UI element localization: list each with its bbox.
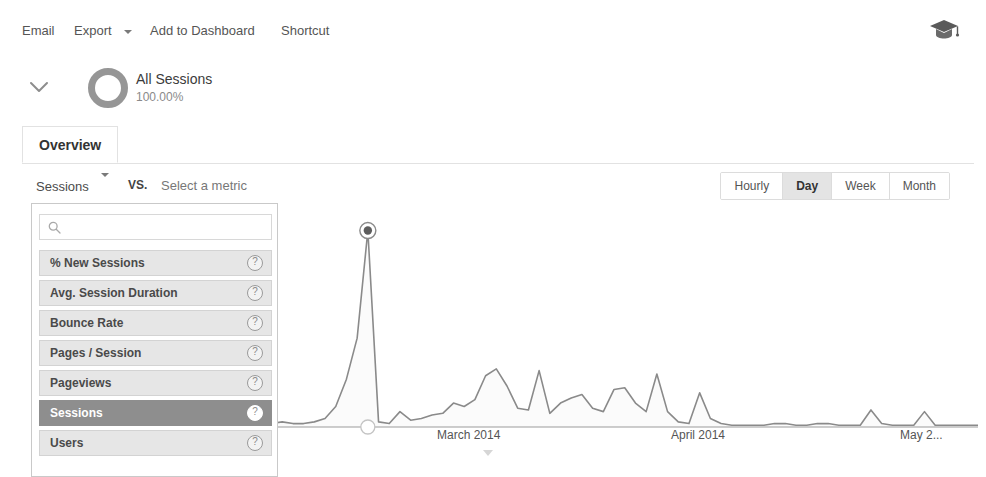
tab-bar: Overview <box>0 126 986 164</box>
help-icon[interactable]: ? <box>247 405 263 421</box>
search-icon <box>48 221 61 234</box>
metric-option-sessions[interactable]: Sessions? <box>39 400 272 426</box>
caret-down-icon <box>101 177 109 195</box>
metric-option-avg-session-duration[interactable]: Avg. Session Duration? <box>39 280 272 306</box>
tab-bar-rule <box>22 163 974 164</box>
metric-option-label: Bounce Rate <box>50 316 123 330</box>
segment-percent: 100.00% <box>136 90 183 104</box>
metric-option-label: Sessions <box>50 406 103 420</box>
metric-option-new-sessions[interactable]: % New Sessions? <box>39 250 272 276</box>
help-icon[interactable]: ? <box>247 255 263 271</box>
x-tick-label: March 2014 <box>437 428 500 442</box>
action-toolbar: Email Export Add to Dashboard Shortcut <box>0 0 986 56</box>
chevron-down-icon[interactable] <box>28 80 50 94</box>
help-icon[interactable]: ? <box>247 345 263 361</box>
graduation-cap-icon[interactable] <box>928 18 962 42</box>
metric-option-label: % New Sessions <box>50 256 145 270</box>
chart-axis-handle-icon[interactable] <box>483 450 493 456</box>
help-icon[interactable]: ? <box>247 315 263 331</box>
help-icon[interactable]: ? <box>247 375 263 391</box>
email-button[interactable]: Email <box>22 24 55 38</box>
granularity-week-button[interactable]: Week <box>832 173 889 199</box>
metric-search-input[interactable] <box>68 216 262 238</box>
metric-option-label: Users <box>50 436 83 450</box>
help-icon[interactable]: ? <box>247 285 263 301</box>
metric-dropdown-panel: % New Sessions?Avg. Session Duration?Bou… <box>31 203 278 477</box>
segment-bar: All Sessions 100.00% <box>0 56 986 118</box>
metric-selector-label: Sessions <box>36 179 89 194</box>
help-icon[interactable]: ? <box>247 435 263 451</box>
tab-overview[interactable]: Overview <box>22 126 118 163</box>
select-a-metric-button[interactable]: Select a metric <box>161 178 247 193</box>
metric-option-pageviews[interactable]: Pageviews? <box>39 370 272 396</box>
export-button[interactable]: Export <box>74 24 112 38</box>
selected-point-dot[interactable] <box>364 226 372 234</box>
metric-selector-button[interactable]: Sessions <box>36 172 109 200</box>
x-tick-label: April 2014 <box>671 428 725 442</box>
metric-option-list: % New Sessions?Avg. Session Duration?Bou… <box>39 250 272 460</box>
metric-option-users[interactable]: Users? <box>39 430 272 456</box>
metric-option-pages-session[interactable]: Pages / Session? <box>39 340 272 366</box>
granularity-month-button[interactable]: Month <box>890 173 949 199</box>
donut-chart-icon <box>88 68 128 108</box>
add-to-dashboard-button[interactable]: Add to Dashboard <box>150 24 255 38</box>
x-tick-label: May 2... <box>900 428 943 442</box>
shortcut-button[interactable]: Shortcut <box>281 24 329 38</box>
caret-down-icon[interactable] <box>124 30 132 34</box>
metric-option-label: Avg. Session Duration <box>50 286 178 300</box>
metric-search-field[interactable] <box>39 214 272 240</box>
granularity-hourly-button[interactable]: Hourly <box>721 173 783 199</box>
tab-overview-label: Overview <box>39 137 101 153</box>
metric-option-label: Pages / Session <box>50 346 141 360</box>
granularity-button-group: Hourly Day Week Month <box>720 172 950 200</box>
metric-option-label: Pageviews <box>50 376 111 390</box>
vs-label: VS. <box>128 178 147 192</box>
metric-option-bounce-rate[interactable]: Bounce Rate? <box>39 310 272 336</box>
granularity-day-button[interactable]: Day <box>783 173 832 199</box>
segment-name[interactable]: All Sessions <box>136 71 212 87</box>
